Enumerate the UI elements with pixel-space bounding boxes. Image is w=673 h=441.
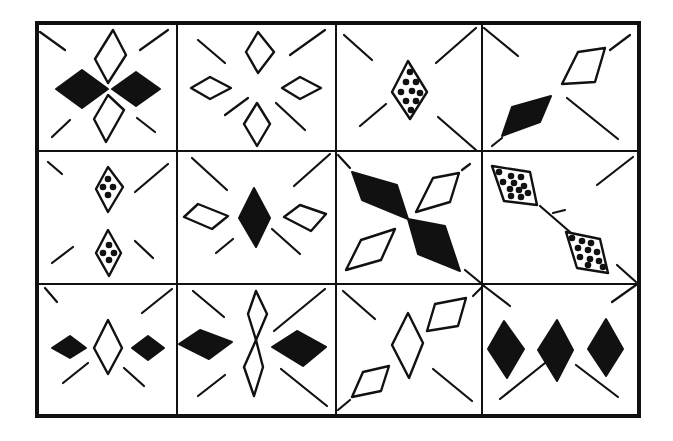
solid-diamond-shape — [132, 336, 164, 360]
dot-mark — [525, 190, 532, 197]
dot-mark — [111, 250, 118, 257]
puzzle-cell-r3c3 — [338, 285, 484, 410]
outline-diamond-shape — [282, 77, 321, 99]
ray-line — [135, 241, 153, 258]
puzzle-cell-r1c4 — [484, 28, 630, 146]
dot-mark — [105, 192, 112, 199]
dot-mark — [596, 258, 603, 265]
outline-diamond-shape — [191, 77, 231, 99]
dots-diamond-shape — [96, 167, 123, 212]
ray-line — [274, 289, 325, 331]
outline-diamond-shape — [244, 340, 263, 396]
dot-mark — [105, 176, 112, 183]
dot-mark — [575, 245, 582, 252]
ray-line — [360, 104, 386, 126]
solid-diamond-shape — [588, 319, 623, 376]
ray-line — [193, 291, 224, 317]
ray-line — [567, 98, 618, 139]
ray-line — [484, 286, 510, 306]
ray-line — [610, 35, 630, 50]
stripes-diamond-shape — [246, 32, 274, 73]
dot-mark — [588, 240, 595, 247]
ray-line — [192, 158, 227, 190]
dot-mark — [587, 256, 594, 263]
ray-line — [198, 40, 225, 63]
ray-line — [492, 138, 502, 146]
dot-mark — [508, 173, 515, 180]
solid-diamond-shape — [408, 219, 460, 271]
ray-line — [142, 289, 172, 313]
ray-line — [344, 35, 372, 60]
dot-mark — [413, 98, 420, 105]
ray-line — [52, 120, 70, 137]
solid-diamond-shape — [112, 72, 160, 106]
hatch-diamond-shape — [95, 30, 126, 83]
dot-mark — [496, 169, 503, 176]
ray-line — [294, 154, 330, 186]
outline-diamond-shape — [346, 229, 395, 270]
ray-line — [276, 103, 305, 130]
dot-mark — [100, 250, 107, 257]
dot-mark — [110, 184, 117, 191]
puzzle-cell-r3c1 — [45, 288, 172, 386]
dot-mark — [507, 186, 514, 193]
dot-mark — [518, 174, 525, 181]
ray-line — [553, 210, 565, 213]
dot-mark — [417, 90, 424, 97]
ray-line — [225, 98, 248, 115]
puzzle-cell-r2c1 — [48, 162, 168, 276]
dot-mark — [100, 184, 107, 191]
dot-mark — [403, 98, 410, 105]
solid-diamond-shape — [179, 330, 232, 359]
ray-line — [617, 265, 636, 282]
ray-line — [436, 28, 476, 63]
dot-mark — [106, 242, 113, 249]
dot-mark — [500, 179, 507, 186]
hatch-diamond-shape — [427, 298, 466, 331]
ray-line — [40, 32, 65, 50]
puzzle-cell-r2c4 — [492, 157, 636, 282]
dot-mark — [407, 69, 414, 76]
dot-mark — [106, 257, 113, 264]
ray-line — [338, 155, 350, 168]
solid-diamond-shape — [239, 188, 270, 247]
puzzle-cell-r1c3 — [344, 28, 476, 150]
ray-line — [272, 229, 300, 254]
ray-line — [140, 30, 168, 50]
hatch-diamond-shape — [352, 366, 389, 397]
ray-line — [63, 363, 88, 383]
dot-mark — [585, 247, 592, 254]
dot-mark — [579, 238, 586, 245]
solid-diamond-shape — [56, 70, 108, 108]
dot-mark — [516, 187, 523, 194]
solid-diamond-shape — [502, 96, 551, 136]
outline-diamond-shape — [416, 173, 459, 212]
puzzle-cell-r3c4 — [484, 285, 636, 399]
ray-line — [612, 285, 636, 302]
ray-line — [281, 369, 327, 406]
dot-mark — [585, 262, 592, 269]
hatch-diamond-shape — [184, 204, 228, 229]
outline-diamond-shape — [94, 320, 122, 374]
puzzle-cell-r2c2 — [184, 154, 330, 254]
ray-line — [338, 400, 350, 410]
puzzle-cells — [40, 28, 636, 410]
ray-line — [465, 270, 482, 284]
outline-diamond-shape — [562, 48, 605, 84]
ray-line — [343, 291, 375, 319]
ray-line — [135, 164, 168, 192]
ray-line — [124, 368, 144, 386]
ray-line — [433, 369, 472, 401]
dot-mark — [511, 180, 518, 187]
puzzle-cell-r1c2 — [191, 30, 325, 146]
solid-diamond-shape — [272, 331, 326, 366]
puzzle-cell-r1c1 — [40, 30, 168, 142]
dot-mark — [577, 254, 584, 261]
outline-diamond-shape — [248, 291, 267, 340]
dot-mark — [594, 249, 601, 256]
ray-line — [52, 247, 73, 263]
ray-line — [438, 117, 476, 150]
dot-mark — [413, 79, 420, 86]
hatch-diamond-shape — [284, 205, 326, 231]
puzzle-cell-r3c2 — [179, 289, 327, 406]
